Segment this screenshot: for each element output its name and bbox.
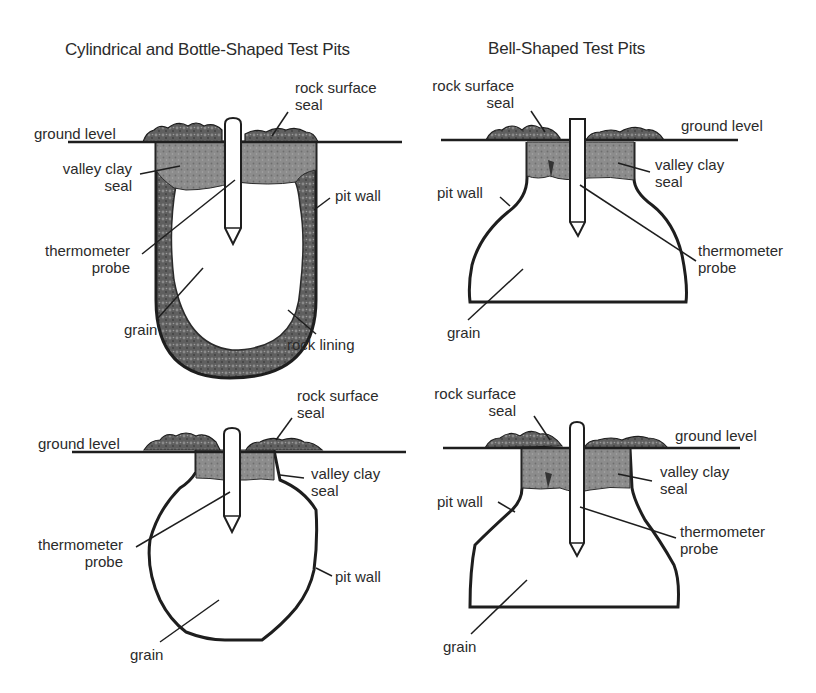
label-rock-surface-seal: rock surface seal: [295, 79, 377, 113]
surface-rocks-right: [246, 438, 322, 450]
label-grain: grain: [447, 324, 480, 341]
label-rock-surface-seal: rock surface seal: [297, 387, 379, 421]
label-rock-surface-seal: rock surface seal: [422, 385, 516, 419]
label-valley-clay-seal: valley clay seal: [660, 463, 729, 497]
panel-bell-top: [441, 111, 738, 320]
label-grain: grain: [443, 638, 476, 655]
surface-rocks-left: [143, 123, 222, 142]
label-grain: grain: [130, 646, 163, 663]
surface-rocks-right: [584, 436, 668, 448]
thermometer-probe-shape: [570, 119, 585, 236]
label-valley-clay-seal: valley clay seal: [311, 465, 380, 499]
label-pit-wall: pit wall: [335, 187, 381, 204]
test-pits-diagram: [0, 0, 816, 693]
label-thermometer-probe: thermometer probe: [22, 536, 123, 570]
label-ground-level: ground level: [675, 427, 757, 444]
label-grain: grain: [124, 321, 157, 338]
label-ground-level: ground level: [681, 117, 763, 134]
surface-rocks-right: [586, 127, 664, 140]
label-pit-wall: pit wall: [335, 568, 381, 585]
label-valley-clay-seal: valley clay seal: [52, 160, 132, 194]
label-rock-lining: rock lining: [287, 336, 355, 353]
thermometer-probe-shape: [570, 422, 584, 556]
surface-rocks-left: [485, 431, 562, 448]
label-pit-wall: pit wall: [437, 184, 483, 201]
label-thermometer-probe: thermometer probe: [680, 523, 765, 557]
label-valley-clay-seal: valley clay seal: [655, 156, 724, 190]
label-thermometer-probe: thermometer probe: [30, 242, 130, 276]
label-ground-level: ground level: [38, 435, 120, 452]
label-pit-wall: pit wall: [437, 493, 483, 510]
surface-rocks-left: [144, 433, 220, 450]
label-ground-level: ground level: [34, 125, 116, 142]
surface-rocks-left: [486, 125, 560, 140]
panel-bottle: [72, 418, 406, 642]
surface-rocks-right: [245, 128, 318, 142]
label-rock-surface-seal: rock surface seal: [420, 77, 514, 111]
label-thermometer-probe: thermometer probe: [698, 242, 783, 276]
